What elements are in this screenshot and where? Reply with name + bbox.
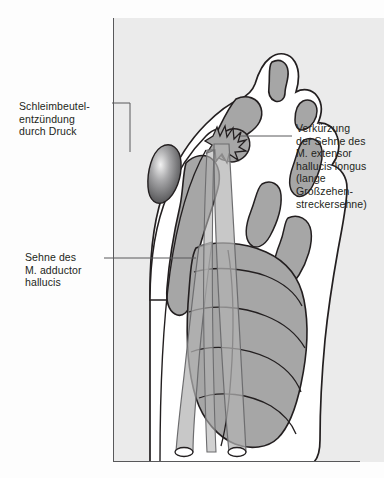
label-bursa-inflammation: Schleimbeutel- entzündung durch Druck bbox=[19, 100, 111, 138]
distal-phalanx-hallux bbox=[269, 60, 288, 101]
label-adductor-hallucis-tendon: Sehne des M. adductor hallucis bbox=[25, 251, 117, 289]
foot-anatomy-drawing bbox=[0, 0, 384, 478]
tendon-cut-end-lateral bbox=[228, 448, 246, 457]
label-extensor-hallucis-longus: Verkürzung der Sehne des M. extensor hal… bbox=[296, 122, 384, 210]
illustration-page: Schleimbeutel- entzündung durch Druck Se… bbox=[0, 0, 384, 478]
tendon-cut-end-medial bbox=[175, 448, 193, 457]
leader-line-bursa bbox=[112, 103, 130, 152]
